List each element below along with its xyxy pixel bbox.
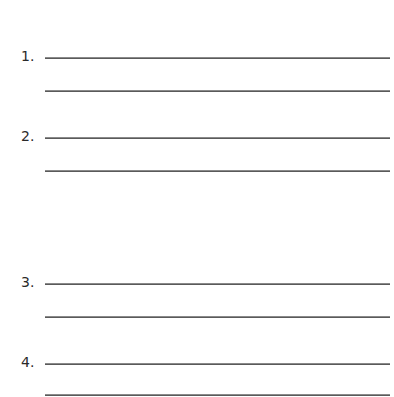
answer-line[interactable] (45, 170, 390, 172)
answer-line[interactable] (45, 394, 390, 396)
item-number: 3. (21, 275, 34, 289)
answer-line[interactable] (45, 90, 390, 92)
item-number: 2. (21, 129, 34, 143)
answer-line[interactable] (45, 137, 390, 139)
item-number: 4. (21, 355, 34, 369)
item-number: 1. (21, 49, 34, 63)
answer-line[interactable] (45, 283, 390, 285)
answer-line[interactable] (45, 57, 390, 59)
answer-line[interactable] (45, 316, 390, 318)
answer-line[interactable] (45, 363, 390, 365)
